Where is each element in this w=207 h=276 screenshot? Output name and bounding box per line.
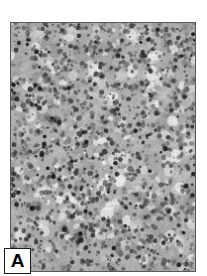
panel-label-letter: A bbox=[11, 251, 25, 270]
panel-label-box: A bbox=[4, 248, 31, 274]
figure-panel-a: A bbox=[0, 0, 207, 276]
micrograph-image-frame bbox=[10, 22, 196, 272]
micrograph-image bbox=[11, 23, 195, 271]
